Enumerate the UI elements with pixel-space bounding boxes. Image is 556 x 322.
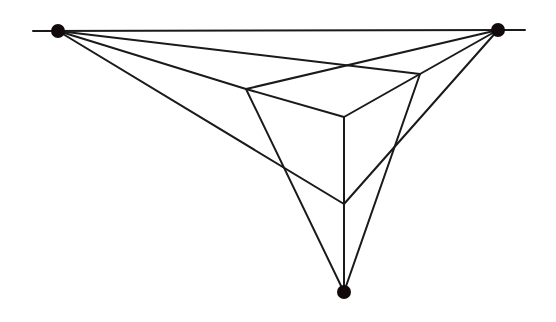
box-edge-front-left: [246, 89, 344, 117]
vanishing-point-left: [51, 24, 65, 38]
vp-left-to-top-left: [58, 31, 246, 89]
vp-bottom-to-top-left: [246, 89, 344, 292]
vp-right-to-top-left: [246, 30, 498, 89]
box-edge-front-right: [344, 74, 420, 117]
vp-right-to-top-right: [420, 30, 498, 74]
vp-bottom-to-top-right: [344, 74, 420, 292]
vp-right-to-bottom: [344, 30, 498, 204]
vp-left-to-bottom: [58, 31, 344, 204]
horizon-line: [33, 30, 525, 31]
vanishing-point-right: [491, 23, 505, 37]
vp-left-to-top-right: [58, 31, 420, 74]
perspective-diagram: [0, 0, 556, 322]
vanishing-point-bottom: [337, 285, 351, 299]
